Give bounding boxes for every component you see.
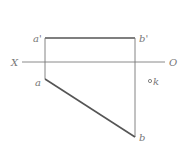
label-b: b bbox=[139, 132, 145, 143]
label-a: a bbox=[35, 77, 41, 88]
line-a-b bbox=[45, 79, 135, 137]
projection-diagram: X O a' b' a b k bbox=[0, 0, 191, 158]
label-a-prime: a' bbox=[33, 33, 42, 44]
axis-label-o: O bbox=[169, 57, 177, 68]
axis-label-x: X bbox=[10, 57, 19, 68]
label-k: k bbox=[153, 76, 159, 87]
point-k-marker bbox=[148, 79, 151, 82]
label-b-prime: b' bbox=[139, 33, 148, 44]
